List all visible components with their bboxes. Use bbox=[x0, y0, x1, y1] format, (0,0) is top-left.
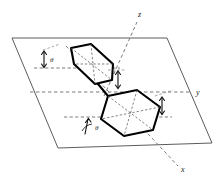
molecular-orientation-diagram: z y x bbox=[0, 0, 223, 180]
theta-lower-label: θ bbox=[95, 124, 99, 132]
axis-y-label: y bbox=[195, 88, 200, 97]
axis-z: z bbox=[104, 10, 142, 96]
axis-x-label: x bbox=[180, 165, 185, 174]
axis-z-label: z bbox=[137, 10, 142, 19]
theta-upper-label: θ bbox=[50, 56, 54, 64]
angle-theta-lower-left: θ bbox=[82, 119, 99, 135]
angle-theta-upper-left: θ bbox=[42, 44, 61, 68]
right-ref-line bbox=[155, 90, 173, 96]
figure-root: z y x bbox=[0, 0, 223, 180]
ring-upper bbox=[71, 44, 113, 84]
ring-lower bbox=[101, 90, 160, 136]
theta-upper-ref-line bbox=[43, 44, 60, 50]
